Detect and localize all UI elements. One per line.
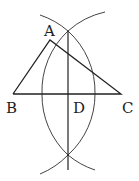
label-a: A (43, 22, 55, 40)
geometry-diagram: A B D C (0, 0, 139, 181)
arc-from-b (68, 12, 105, 170)
label-c: C (122, 99, 133, 117)
triangle-abc (13, 40, 121, 94)
label-d: D (73, 99, 85, 117)
label-b: B (6, 99, 17, 117)
